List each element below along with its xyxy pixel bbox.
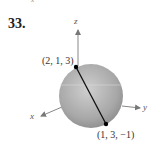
y-axis-label: y (143, 102, 147, 112)
y-axis (122, 106, 140, 108)
point-label-top: (2, 1, 3) (42, 55, 74, 66)
z-axis-label: z (74, 16, 78, 26)
x-axis-label: x (30, 111, 34, 121)
point-label-bottom: (1, 3, −1) (97, 129, 134, 140)
x-axis (41, 107, 62, 116)
sphere-diagram (0, 0, 160, 144)
point-2-1-3 (74, 65, 78, 69)
point-1-3-neg1 (104, 122, 108, 126)
